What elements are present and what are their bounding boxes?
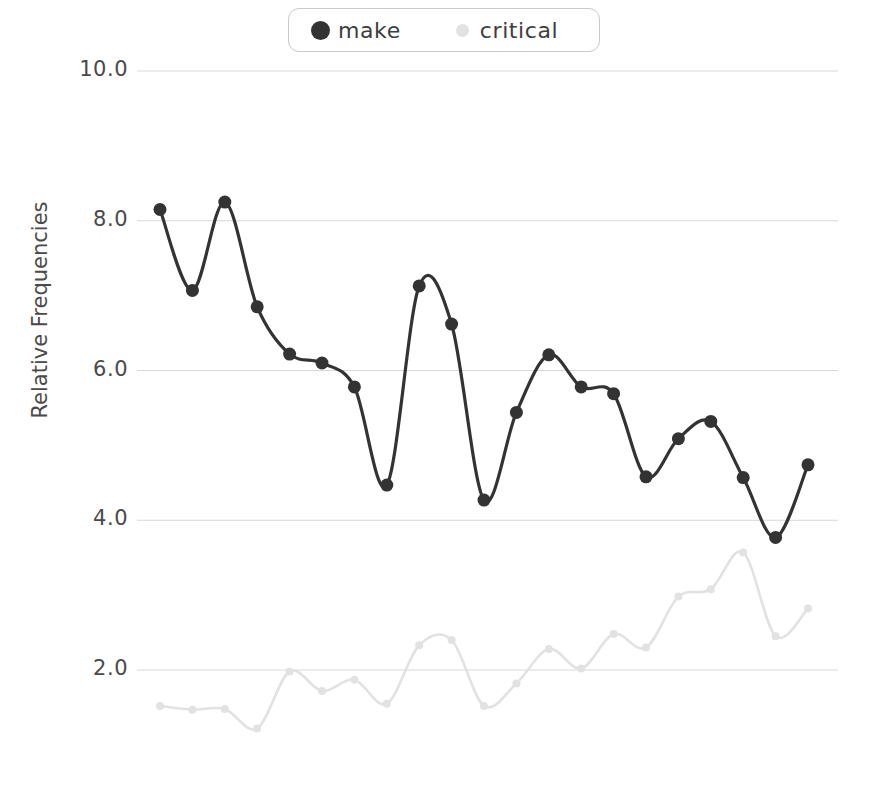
legend-label-critical: critical (480, 18, 558, 43)
data-point-critical (448, 636, 456, 644)
legend-item-critical[interactable]: critical (453, 9, 558, 51)
data-point-critical (253, 724, 261, 732)
legend-item-make[interactable]: make (311, 9, 401, 51)
chart-page: Relative Frequencies 10.08.06.04.02.0 ma… (0, 0, 871, 790)
data-point-critical (512, 679, 520, 687)
data-point-make (802, 458, 815, 471)
data-point-make (380, 479, 393, 492)
data-point-critical (221, 705, 229, 713)
data-point-make (607, 387, 620, 400)
data-point-make (640, 470, 653, 483)
legend[interactable]: make critical (288, 8, 600, 52)
series-critical (156, 548, 812, 732)
data-point-critical (804, 605, 812, 613)
legend-marker-make-icon (311, 21, 330, 40)
data-point-make (542, 348, 555, 361)
data-point-critical (772, 632, 780, 640)
data-point-make (510, 406, 523, 419)
data-point-make (672, 432, 685, 445)
data-point-make (154, 203, 167, 216)
data-point-critical (545, 645, 553, 653)
data-point-critical (286, 668, 294, 676)
data-point-critical (350, 676, 358, 684)
data-point-critical (156, 702, 164, 710)
data-point-critical (642, 644, 650, 652)
data-point-critical (318, 687, 326, 695)
data-point-make (575, 380, 588, 393)
line-chart-plot (0, 0, 871, 790)
data-point-make (186, 284, 199, 297)
data-point-make (348, 380, 361, 393)
data-point-critical (674, 593, 682, 601)
data-point-make (445, 318, 458, 331)
data-point-critical (739, 548, 747, 556)
data-point-critical (415, 641, 423, 649)
data-point-make (704, 415, 717, 428)
data-point-make (413, 279, 426, 292)
data-point-critical (383, 700, 391, 708)
data-point-make (218, 196, 231, 209)
data-point-critical (577, 665, 585, 673)
legend-marker-critical-icon (456, 24, 469, 37)
series-line-make (160, 202, 808, 538)
data-point-critical (610, 630, 618, 638)
gridlines (137, 71, 838, 670)
data-point-critical (188, 706, 196, 714)
series-make (154, 196, 815, 544)
data-point-make (478, 494, 491, 507)
legend-label-make: make (338, 18, 401, 43)
data-point-critical (707, 585, 715, 593)
data-point-make (283, 348, 296, 361)
data-point-make (737, 471, 750, 484)
data-point-make (769, 531, 782, 544)
data-point-make (316, 357, 329, 370)
series-layer (154, 196, 815, 733)
data-point-critical (480, 702, 488, 710)
data-point-make (251, 300, 264, 313)
